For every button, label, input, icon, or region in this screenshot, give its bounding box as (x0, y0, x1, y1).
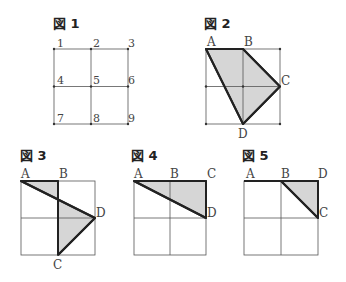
point-6-label: 6 (128, 74, 135, 87)
figure-2-title: 図 2 (204, 16, 231, 31)
vertex-d-label: D (207, 206, 217, 220)
vertex-d-label: D (238, 127, 248, 141)
vertex-c-label: C (319, 206, 328, 220)
vertex-a-label: A (206, 35, 216, 49)
point-8-label: 8 (93, 112, 100, 125)
figure-5-title: 図 5 (242, 148, 269, 163)
figure-1-title: 図 1 (53, 16, 80, 31)
vertex-b-label: B (281, 167, 290, 181)
point-1-label: 1 (57, 37, 64, 50)
figure-2: 図 2 A B C D (204, 16, 290, 141)
figure-5: 図 5 A B D C (242, 148, 328, 255)
figures-canvas: 図 1 1 2 3 4 5 6 7 8 9 図 2 A B (0, 0, 346, 282)
vertex-b-label: B (170, 167, 179, 181)
vertex-a-label: A (245, 167, 255, 181)
point-4-label: 4 (57, 74, 64, 87)
vertex-c-label: C (207, 167, 216, 181)
figure-4: 図 4 A B C D (131, 148, 217, 255)
point-2-label: 2 (93, 37, 100, 50)
vertex-b-label: B (244, 35, 253, 49)
vertex-d-label: D (318, 167, 328, 181)
point-3-label: 3 (128, 37, 135, 50)
vertex-d-label: D (96, 206, 106, 220)
vertex-a-label: A (133, 167, 143, 181)
point-7-label: 7 (57, 112, 64, 125)
vertex-b-label: B (59, 167, 68, 181)
point-9-label: 9 (128, 112, 135, 125)
vertex-a-label: A (20, 167, 30, 181)
point-5-label: 5 (93, 74, 100, 87)
vertex-c-label: C (53, 258, 62, 272)
figure-1: 図 1 1 2 3 4 5 6 7 8 9 (53, 16, 135, 125)
figure-3-title: 図 3 (20, 148, 47, 163)
vertex-c-label: C (281, 74, 290, 88)
figure-3: 図 3 A B D C (20, 148, 106, 272)
figure-4-title: 図 4 (131, 148, 158, 163)
